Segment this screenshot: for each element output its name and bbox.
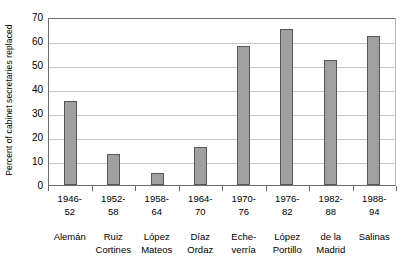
- bar[interactable]: [280, 29, 293, 185]
- y-axis-tick-label: 30: [32, 109, 43, 119]
- name-label-line2: verría: [222, 244, 266, 257]
- period-label-line2: 88: [309, 206, 353, 219]
- x-axis-tick: [309, 186, 310, 191]
- name-label-line1: López: [135, 231, 179, 244]
- bar[interactable]: [107, 154, 120, 185]
- y-axis-tick-label: 40: [32, 85, 43, 95]
- name-label-line2: Portillo: [266, 244, 310, 257]
- x-axis-period-label: 1976-82: [266, 193, 310, 218]
- bar-slot: [92, 19, 135, 185]
- y-axis-title-text: Percent of cabinet secretaries replaced: [4, 24, 14, 175]
- x-axis-period-label: 1970-76: [222, 193, 266, 218]
- bar-slot: [265, 19, 308, 185]
- y-axis-tick-label: 20: [32, 133, 43, 143]
- x-axis-president-name: LópezPortillo: [266, 231, 310, 256]
- plot-area: [48, 18, 396, 186]
- x-axis-period-labels: 1946-521952-581958-641964-701970-761976-…: [48, 193, 396, 218]
- bar[interactable]: [64, 101, 77, 185]
- x-axis-period-label: 1964-70: [179, 193, 223, 218]
- name-label-line2: Cortines: [92, 244, 136, 257]
- period-label-line2: 76: [222, 206, 266, 219]
- x-axis-president-name: Alemán: [48, 231, 92, 256]
- name-label-line2: Madrid: [309, 244, 353, 257]
- period-label-line2: 70: [179, 206, 223, 219]
- period-label-line2: 52: [48, 206, 92, 219]
- y-axis-tick-labels: 706050403020100: [16, 12, 46, 198]
- name-label-line1: de la: [309, 231, 353, 244]
- x-axis-tick: [135, 186, 136, 191]
- y-axis-tick-label: 70: [32, 13, 43, 23]
- period-label-line1: 1964-: [179, 193, 223, 206]
- bar[interactable]: [367, 36, 380, 185]
- bar[interactable]: [194, 147, 207, 185]
- period-label-line2: 58: [92, 206, 136, 219]
- name-label-line2: Mateos: [135, 244, 179, 257]
- name-label-line1: Díaz: [179, 231, 223, 244]
- period-label-line1: 1982-: [309, 193, 353, 206]
- bar[interactable]: [324, 60, 337, 185]
- name-label-line1: Alemán: [48, 231, 92, 244]
- y-axis-tick-label: 60: [32, 37, 43, 47]
- bars-layer: [49, 19, 395, 185]
- x-axis-president-name: Salinas: [353, 231, 397, 256]
- x-axis-president-name: Eche-verría: [222, 231, 266, 256]
- x-axis-tick: [92, 186, 93, 191]
- bar[interactable]: [151, 173, 164, 185]
- x-axis-period-label: 1958-64: [135, 193, 179, 218]
- x-axis-tick: [353, 186, 354, 191]
- bar-slot: [49, 19, 92, 185]
- bar-slot: [352, 19, 395, 185]
- name-label-line1: Salinas: [353, 231, 397, 244]
- x-axis-president-name: de laMadrid: [309, 231, 353, 256]
- period-label-line1: 1988-: [353, 193, 397, 206]
- x-axis-tick-marks: [48, 186, 396, 191]
- x-axis-period-label: 1988-94: [353, 193, 397, 218]
- x-axis-period-label: 1952-58: [92, 193, 136, 218]
- bar-slot: [309, 19, 352, 185]
- period-label-line1: 1958-: [135, 193, 179, 206]
- x-axis-tick: [222, 186, 223, 191]
- name-label-line2: Ordaz: [179, 244, 223, 257]
- x-axis-president-name: LópezMateos: [135, 231, 179, 256]
- x-axis-name-labels: AlemánRuizCortinesLópezMateosDíazOrdazEc…: [48, 231, 396, 256]
- bar-slot: [136, 19, 179, 185]
- name-label-line1: Ruiz: [92, 231, 136, 244]
- period-label-line1: 1946-: [48, 193, 92, 206]
- x-axis-tick: [266, 186, 267, 191]
- period-label-line2: 82: [266, 206, 310, 219]
- x-axis-period-label: 1946-52: [48, 193, 92, 218]
- bar-chart-figure: Percent of cabinet secretaries replaced …: [0, 0, 406, 265]
- x-axis-president-name: DíazOrdaz: [179, 231, 223, 256]
- y-axis-tick-label: 50: [32, 61, 43, 71]
- y-axis-tick-label: 10: [32, 157, 43, 167]
- x-axis-tick: [396, 186, 397, 191]
- y-axis-tick-label: 0: [37, 181, 43, 191]
- period-label-line1: 1952-: [92, 193, 136, 206]
- bar-slot: [222, 19, 265, 185]
- name-label-line1: López: [266, 231, 310, 244]
- x-axis-president-name: RuizCortines: [92, 231, 136, 256]
- period-label-line2: 94: [353, 206, 397, 219]
- x-axis-tick: [179, 186, 180, 191]
- bar-slot: [179, 19, 222, 185]
- bar[interactable]: [237, 46, 250, 185]
- x-axis-tick: [48, 186, 49, 191]
- period-label-line2: 64: [135, 206, 179, 219]
- period-label-line1: 1976-: [266, 193, 310, 206]
- x-axis-period-label: 1982-88: [309, 193, 353, 218]
- name-label-line1: Eche-: [222, 231, 266, 244]
- period-label-line1: 1970-: [222, 193, 266, 206]
